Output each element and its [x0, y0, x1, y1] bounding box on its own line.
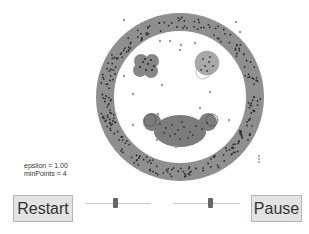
parameters-display: epsilon = 1.00 minPoints = 4 [24, 162, 68, 178]
epsilon-slider-track[interactable] [85, 203, 151, 204]
minpoints-slider-track[interactable] [173, 203, 240, 204]
minpoints-label: minPoints = 4 [24, 170, 68, 178]
epsilon-slider[interactable] [85, 197, 151, 209]
right-eye-cluster [195, 51, 219, 79]
left-eye-cluster [133, 54, 159, 78]
epsilon-label: epsilon = 1.00 [24, 162, 68, 170]
mouth-cluster [143, 113, 218, 147]
restart-button[interactable]: Restart [13, 195, 73, 222]
epsilon-slider-thumb[interactable] [113, 198, 118, 208]
minpoints-slider[interactable] [173, 197, 240, 209]
minpoints-slider-thumb[interactable] [208, 198, 213, 208]
pause-button[interactable]: Pause [251, 195, 302, 222]
